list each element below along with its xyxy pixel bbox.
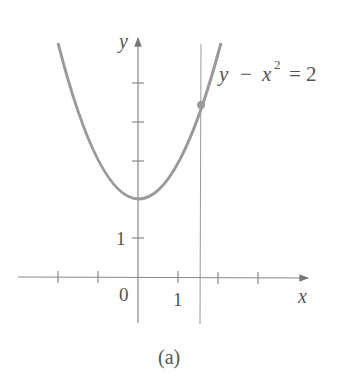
- parabola-curve: [58, 43, 221, 199]
- svg-text:x: x: [261, 62, 272, 86]
- x-tick-label-1: 1: [173, 289, 183, 310]
- svg-text:2: 2: [274, 57, 281, 72]
- parabola-diagram: y x 0 1 1 y − x 2 = 2 (a): [0, 0, 344, 386]
- svg-text:−: −: [240, 62, 252, 86]
- equation-label: y − x 2 = 2: [217, 57, 317, 86]
- origin-label: 0: [119, 284, 129, 305]
- vertical-line: [200, 44, 201, 324]
- figure-caption: (a): [158, 346, 180, 369]
- y-tick-label-1: 1: [116, 228, 126, 249]
- svg-text:= 2: = 2: [289, 62, 317, 86]
- x-axis: [18, 277, 308, 278]
- svg-text:y: y: [217, 62, 229, 86]
- y-axis-label: y: [117, 30, 128, 53]
- x-axis-label: x: [297, 285, 307, 307]
- intersection-point: [197, 101, 205, 109]
